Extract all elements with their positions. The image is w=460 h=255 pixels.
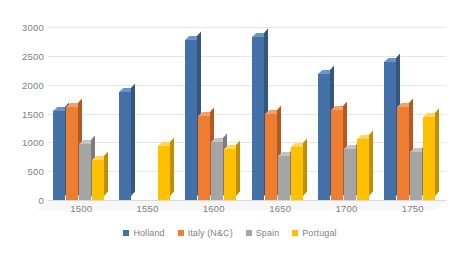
- bar-group: [114, 27, 180, 200]
- legend-swatch-icon: [246, 230, 252, 236]
- bar-group: [380, 27, 446, 200]
- legend-item-holland[interactable]: Holland: [123, 228, 164, 238]
- y-axis-tick-label: 1500: [2, 108, 44, 119]
- legend-item-italy-n-c[interactable]: Italy (N&C): [178, 228, 233, 238]
- legend-item-spain[interactable]: Spain: [246, 228, 280, 238]
- y-axis-tick-label: 2000: [2, 79, 44, 90]
- bar-face: [119, 92, 131, 200]
- bar-italy-n-c-1650[interactable]: [265, 114, 277, 200]
- bar-portugal-1750[interactable]: [423, 117, 435, 200]
- bar-face: [265, 114, 277, 200]
- bar-group-inner: [48, 27, 114, 200]
- bar-face: [318, 74, 330, 200]
- bar-group: [313, 27, 379, 200]
- bar-face: [185, 40, 197, 200]
- y-axis-tick-label: 2500: [2, 50, 44, 61]
- bar-face: [53, 111, 65, 200]
- x-axis-tick-label: 1550: [137, 203, 159, 214]
- bar-portugal-1600[interactable]: [224, 149, 236, 200]
- bar-holland-1700[interactable]: [318, 74, 330, 200]
- y-axis-tick-label: 500: [2, 166, 44, 177]
- bar-group-inner: [247, 27, 313, 200]
- bar-face: [66, 107, 78, 200]
- bar-group-inner: [181, 27, 247, 200]
- bar-face: [344, 149, 356, 200]
- bar-holland-1600[interactable]: [185, 40, 197, 200]
- bar-italy-n-c-1600[interactable]: [198, 116, 210, 200]
- bar-face: [79, 144, 91, 201]
- bar-side: [369, 130, 373, 196]
- bar-face: [423, 117, 435, 200]
- bar-face: [291, 147, 303, 200]
- legend-swatch-icon: [178, 230, 184, 236]
- bar-group-inner: [313, 27, 379, 200]
- bar-spain-1650[interactable]: [278, 156, 290, 200]
- bar-holland-1750[interactable]: [384, 62, 396, 200]
- x-axis: 150015501600165017001750: [48, 203, 446, 221]
- bar-chart: 050010001500200025003000 150015501600165…: [0, 0, 460, 255]
- bar-side: [104, 151, 108, 196]
- bar-side: [303, 139, 307, 196]
- x-axis-tick-label: 1600: [203, 203, 225, 214]
- legend-label: Holland: [133, 228, 164, 238]
- bar-face: [410, 152, 422, 200]
- bar-portugal-1650[interactable]: [291, 147, 303, 200]
- bar-portugal-1550[interactable]: [158, 146, 170, 200]
- bar-holland-1550[interactable]: [119, 92, 131, 200]
- y-axis-tick-label: 0: [2, 195, 44, 206]
- bar-group: [181, 27, 247, 200]
- bar-italy-n-c-1500[interactable]: [66, 107, 78, 200]
- bar-holland-1500[interactable]: [53, 111, 65, 200]
- bar-portugal-1500[interactable]: [92, 160, 104, 200]
- y-axis-tick-label: 1000: [2, 137, 44, 148]
- legend-label: Spain: [256, 228, 280, 238]
- bar-face: [278, 156, 290, 200]
- bar-spain-1700[interactable]: [344, 149, 356, 200]
- bar-side: [170, 138, 174, 196]
- bar-italy-n-c-1700[interactable]: [331, 110, 343, 200]
- bar-spain-1500[interactable]: [79, 144, 91, 201]
- bar-group: [247, 27, 313, 200]
- bar-portugal-1700[interactable]: [357, 139, 369, 200]
- bar-face: [224, 149, 236, 200]
- bar-face: [92, 160, 104, 200]
- chart-legend: HollandItaly (N&C)SpainPortugal: [0, 228, 460, 238]
- legend-item-portugal[interactable]: Portugal: [292, 228, 336, 238]
- gridline: [48, 200, 446, 201]
- bar-group: [48, 27, 114, 200]
- x-axis-tick-label: 1700: [336, 203, 358, 214]
- bar-face: [331, 110, 343, 200]
- x-axis-tick-label: 1750: [402, 203, 424, 214]
- y-axis-tick-label: 3000: [2, 22, 44, 33]
- bar-face: [211, 142, 223, 200]
- legend-swatch-icon: [123, 230, 129, 236]
- bar-holland-1650[interactable]: [252, 37, 264, 200]
- bar-italy-n-c-1750[interactable]: [397, 107, 409, 200]
- x-axis-tick-label: 1500: [70, 203, 92, 214]
- x-axis-tick-label: 1650: [269, 203, 291, 214]
- legend-label: Portugal: [302, 228, 336, 238]
- legend-swatch-icon: [292, 230, 298, 236]
- bar-side: [435, 109, 439, 196]
- bar-face: [397, 107, 409, 200]
- bar-face: [158, 146, 170, 200]
- plot-area: [48, 27, 446, 200]
- y-axis: 050010001500200025003000: [0, 27, 44, 200]
- bar-spain-1600[interactable]: [211, 142, 223, 200]
- bar-side: [236, 140, 240, 196]
- legend-label: Italy (N&C): [188, 228, 233, 238]
- bar-spain-1750[interactable]: [410, 152, 422, 200]
- bar-face: [198, 116, 210, 200]
- bar-face: [384, 62, 396, 200]
- bar-group-inner: [380, 27, 446, 200]
- bar-group-inner: [114, 27, 180, 200]
- bar-side: [131, 83, 135, 196]
- bar-face: [252, 37, 264, 200]
- bar-face: [357, 139, 369, 200]
